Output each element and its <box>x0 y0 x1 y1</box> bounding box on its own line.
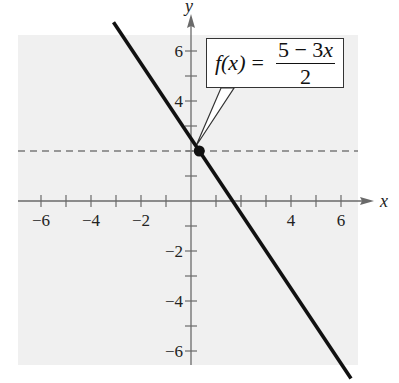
y-tick-label: 4 <box>175 92 184 111</box>
x-axis-arrow-icon <box>360 197 374 205</box>
y-tick-label: −2 <box>165 242 183 261</box>
function-name: f(x) <box>215 50 246 76</box>
x-tick-label: −4 <box>82 211 101 230</box>
x-tick-label: −6 <box>32 211 50 230</box>
y-tick-label: −6 <box>165 342 183 361</box>
equals-sign: = <box>251 50 263 76</box>
x-tick-label: −2 <box>132 211 150 230</box>
denominator: 2 <box>300 64 311 88</box>
numerator-constant: 5 − 3 <box>278 37 323 62</box>
y-axis-arrow-icon <box>187 14 195 28</box>
x-tick-label: 4 <box>287 211 296 230</box>
y-tick-label: 6 <box>175 42 184 61</box>
numerator: 5 − 3x <box>276 39 335 64</box>
intersection-point <box>194 146 205 157</box>
x-axis-label: x <box>379 191 388 211</box>
y-axis-label: y <box>183 0 193 16</box>
y-tick-label: −4 <box>165 292 184 311</box>
fraction: 5 − 3x 2 <box>276 39 335 88</box>
x-tick-label: 6 <box>337 211 346 230</box>
function-callout: f(x) = 5 − 3x 2 <box>206 38 344 88</box>
numerator-variable: x <box>323 37 333 62</box>
